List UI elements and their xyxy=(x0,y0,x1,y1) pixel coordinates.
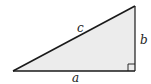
label-c: c xyxy=(77,21,84,35)
label-a: a xyxy=(72,71,79,84)
label-b: b xyxy=(140,33,148,47)
right-triangle-diagram: c b a xyxy=(0,0,151,84)
